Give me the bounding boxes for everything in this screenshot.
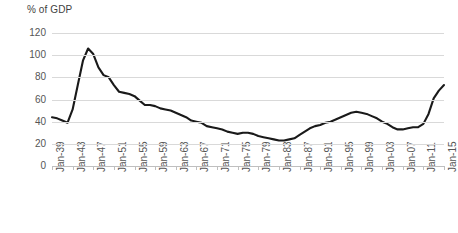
gridline — [52, 144, 444, 145]
plot-area — [52, 33, 444, 166]
x-tick-label: Jan-15 — [448, 141, 458, 172]
y-tick-label: 0 — [6, 161, 46, 171]
gridline — [52, 77, 444, 78]
gridline — [52, 122, 444, 123]
gridline — [52, 55, 444, 56]
y-tick-label: 80 — [6, 72, 46, 82]
gridline — [52, 33, 444, 34]
y-tick-label: 20 — [6, 139, 46, 149]
y-axis-title: % of GDP — [27, 4, 72, 15]
y-tick-label: 60 — [6, 95, 46, 105]
y-tick-label: 120 — [6, 28, 46, 38]
x-axis-line — [52, 166, 444, 167]
y-tick-label: 100 — [6, 50, 46, 60]
gridline — [52, 100, 444, 101]
y-tick-label: 40 — [6, 117, 46, 127]
x-tickmark — [444, 166, 445, 170]
